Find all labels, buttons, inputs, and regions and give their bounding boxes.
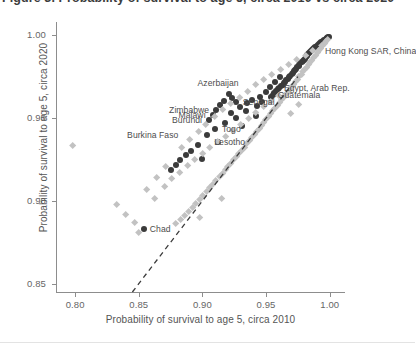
- y-axis-title: Probability of survival to age 5, circa …: [38, 28, 49, 248]
- footer-divider: [0, 342, 415, 343]
- x-axis-title: Probability of survival to age 5, circa …: [56, 314, 345, 325]
- diagonal-reference-line: [132, 77, 298, 292]
